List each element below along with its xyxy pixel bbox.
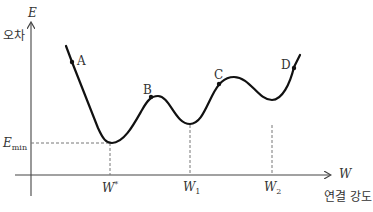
e-min-label: Emin [3,137,27,152]
point-c-label: C [214,69,223,81]
y-axis-label: E [28,7,37,19]
point-b-label: B [143,84,152,96]
x-axis-caption: 연결 강도 [324,191,372,203]
y-axis-caption: 오차 [3,30,25,42]
point-d-label: D [281,59,291,71]
error-curve-diagram: E 오차 W 연결 강도 Emin W* W1 W2 A B C D [0,0,373,212]
point-a-dot [70,60,74,64]
w2-label: W2 [264,181,281,196]
point-a-label: A [77,55,86,67]
error-curve [66,46,300,143]
x-axis-label: W [339,168,351,180]
w-star-label: W* [102,181,118,194]
point-d-dot [292,66,296,70]
w1-label: W1 [183,181,200,196]
point-c-dot [217,82,221,86]
